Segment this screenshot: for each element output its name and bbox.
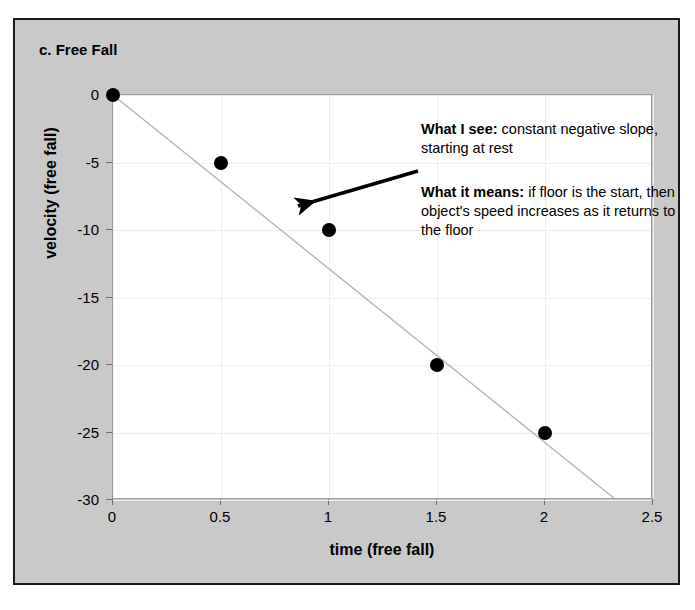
annotation-what-it-means: What it means: if floor is the start, th…: [421, 183, 683, 240]
annotation-what-i-see-label: What I see:: [421, 121, 498, 137]
x-tick-label: 0.5: [190, 508, 250, 525]
annotation-what-i-see: What I see: constant negative slope, sta…: [421, 120, 676, 158]
data-point: [322, 223, 336, 237]
x-axis-title: time (free fall): [112, 541, 652, 559]
data-point: [214, 156, 228, 170]
x-tick-label: 1: [298, 508, 358, 525]
y-tick-label: -10: [47, 221, 99, 238]
x-tick-label: 0: [82, 508, 142, 525]
x-tick-label: 2: [514, 508, 574, 525]
pointer-arrow-icon: [270, 155, 440, 225]
x-tick-label: 1.5: [406, 508, 466, 525]
chart-title: c. Free Fall: [39, 41, 117, 58]
y-tick-label: -20: [47, 356, 99, 373]
data-point: [106, 88, 120, 102]
gridline-horizontal: [113, 500, 651, 501]
y-tick-label: 0: [47, 86, 99, 103]
data-point: [430, 358, 444, 372]
x-tick-label: 2.5: [622, 508, 682, 525]
y-tick-label: -30: [47, 491, 99, 508]
x-tick-mark: [652, 499, 653, 505]
y-tick-label: -25: [47, 423, 99, 440]
figure-frame: c. Free Fall velocity (free fall) time (…: [13, 18, 680, 585]
y-tick-label: -15: [47, 288, 99, 305]
y-tick-label: -5: [47, 153, 99, 170]
data-point: [538, 426, 552, 440]
